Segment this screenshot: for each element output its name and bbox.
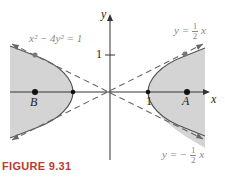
asymptote-lower-var: x <box>199 148 204 160</box>
asymptote-lower-lhs: y = − <box>162 148 187 160</box>
asymptote-lower-label: y = − 12 x <box>162 146 204 165</box>
curve-point-upper-right <box>183 52 188 57</box>
caption-word: Figure <box>2 160 45 172</box>
x-axis-label: x <box>211 92 216 107</box>
asymptote-upper-var: x <box>201 24 206 36</box>
asymptote-upper-label: y = 12 x <box>174 22 206 41</box>
y-axis-label: y <box>101 7 106 22</box>
asymptote-lower-fraction: 12 <box>190 146 197 165</box>
y-axis-arrow-icon <box>107 14 113 21</box>
curve-point-upper-left <box>33 53 38 58</box>
vertex-left <box>71 90 76 95</box>
hyperbola-equation: x² − 4y² = 1 <box>29 32 82 44</box>
asymptote-upper-fraction: 12 <box>192 22 199 41</box>
asymptote-upper-lhs: y = <box>174 24 189 36</box>
figure-caption: Figure 9.31 <box>2 160 71 172</box>
y-tick-label: 1 <box>96 47 102 62</box>
caption-number: 9.31 <box>49 160 72 172</box>
x-tick-label: 1 <box>146 94 152 109</box>
x-axis-arrow-icon <box>203 89 210 95</box>
point-a-label: A <box>182 94 189 109</box>
point-b-label: B <box>30 95 37 110</box>
